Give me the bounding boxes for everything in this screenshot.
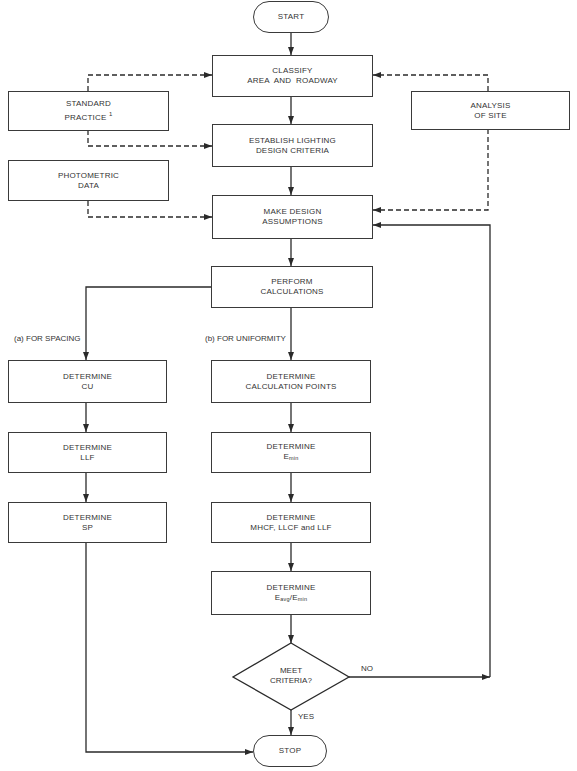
classify-line2: AREA AND ROADWAY (247, 76, 338, 86)
sp-line2: SP (82, 523, 93, 533)
stop-label: STOP (279, 746, 301, 756)
perform-line2: CALCULATIONS (260, 287, 323, 297)
perform-line1: PERFORM (271, 277, 312, 287)
determine-calc-points-node: DETERMINE CALCULATION POINTS (211, 360, 371, 403)
classify-line1: CLASSIFY (272, 66, 312, 76)
edge-analysis-classify (373, 75, 488, 91)
establish-line1: ESTABLISH LIGHTING (249, 136, 336, 146)
analysis-of-site-node: ANALYSIS OF SITE (411, 91, 570, 130)
make-line1: MAKE DESIGN (264, 207, 322, 217)
determine-cu-node: DETERMINE CU (8, 360, 167, 403)
ratio-sub2: min (298, 596, 307, 602)
emin-line1: DETERMINE (267, 442, 316, 452)
standard-practice-node: STANDARD PRACTICE 1 (8, 91, 169, 131)
perform-calculations-node: PERFORM CALCULATIONS (211, 266, 373, 308)
calcpoints-line2: CALCULATION POINTS (245, 382, 336, 392)
meet-line1: MEET (253, 666, 329, 676)
meet-line2: CRITERIA? (253, 676, 329, 686)
sp-line1: DETERMINE (63, 513, 112, 523)
edge-perform-cu (86, 287, 211, 360)
photometric-line2: DATA (78, 181, 99, 191)
standard-text: PRACTICE (64, 113, 106, 122)
determine-llf-node: DETERMINE LLF (8, 432, 167, 473)
edge-photometric-make (88, 201, 212, 217)
make-assumptions-node: MAKE DESIGN ASSUMPTIONS (212, 195, 373, 239)
factors-line1: DETERMINE (267, 513, 316, 523)
start-label: START (278, 12, 304, 22)
establish-line2: DESIGN CRITERIA (256, 146, 329, 156)
spacing-branch-label: (a) FOR SPACING (14, 334, 81, 343)
footnote-marker: 1 (109, 111, 113, 117)
emin-sub: min (289, 455, 298, 461)
factors-line2: MHCF, LLCF and LLF (250, 523, 331, 533)
standard-line2: PRACTICE 1 (64, 109, 112, 123)
flowchart: START CLASSIFY AREA AND ROADWAY STANDARD… (0, 0, 577, 771)
determine-ratio-node: DETERMINE Eavg/Emin (211, 571, 371, 615)
ratio-sub1: avg (280, 596, 289, 602)
stop-node: STOP (253, 735, 327, 767)
calcpoints-line1: DETERMINE (267, 372, 316, 382)
cu-line2: CU (82, 382, 94, 392)
no-label: NO (361, 664, 373, 673)
determine-emin-node: DETERMINE Emin (211, 432, 371, 473)
establish-criteria-node: ESTABLISH LIGHTING DESIGN CRITERIA (212, 124, 373, 167)
determine-sp-node: DETERMINE SP (8, 502, 167, 543)
determine-factors-node: DETERMINE MHCF, LLCF and LLF (211, 502, 371, 543)
llf-line2: LLF (80, 453, 94, 463)
llf-line1: DETERMINE (63, 443, 112, 453)
meet-criteria-text: MEET CRITERIA? (253, 666, 329, 686)
cu-line1: DETERMINE (63, 372, 112, 382)
standard-line1: STANDARD (66, 99, 111, 109)
edge-standard-classify (88, 75, 212, 91)
edge-analysis-make (373, 129, 488, 210)
uniformity-branch-label: (b) FOR UNIFORMITY (205, 334, 286, 343)
emin-line2: Emin (283, 452, 298, 463)
analysis-line2: OF SITE (474, 111, 507, 121)
ratio-line2: Eavg/Emin (275, 593, 307, 604)
ratio-line1: DETERMINE (267, 583, 316, 593)
make-line2: ASSUMPTIONS (262, 217, 322, 227)
photometric-line1: PHOTOMETRIC (58, 171, 119, 181)
yes-label: YES (298, 712, 314, 721)
classify-node: CLASSIFY AREA AND ROADWAY (212, 55, 373, 97)
photometric-data-node: PHOTOMETRIC DATA (8, 160, 169, 201)
edge-no-return (373, 225, 490, 677)
analysis-line1: ANALYSIS (470, 101, 510, 111)
start-node: START (253, 1, 329, 33)
edge-standard-establish (88, 130, 212, 146)
